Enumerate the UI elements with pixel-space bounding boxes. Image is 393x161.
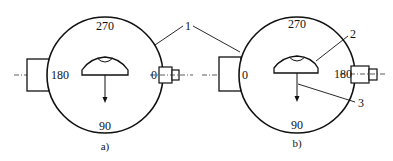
caption-a: a) [101, 140, 110, 153]
callout-3: 3 [358, 96, 364, 110]
right-plug-b [369, 69, 377, 80]
leader-1a [155, 26, 183, 45]
right-connector-b [351, 66, 369, 83]
figure-b: 270 90 0 180 b) 2 3 [202, 17, 385, 150]
leader-1b [193, 26, 240, 52]
angle-0-a: 0 [151, 68, 157, 82]
angle-180-b: 180 [334, 67, 352, 81]
angle-270-a: 270 [96, 19, 114, 33]
angle-180-a: 180 [51, 68, 69, 82]
callout-2: 2 [350, 27, 356, 41]
callout-1: 1 [185, 19, 191, 33]
angle-270-b: 270 [288, 17, 306, 31]
diagram-canvas: 270 90 180 0 a) 1 270 90 0 180 b) 2 3 [0, 0, 393, 161]
angle-90-a: 90 [99, 119, 111, 133]
angle-90-b: 90 [291, 118, 303, 132]
left-housing-b [219, 57, 241, 91]
angle-0-b: 0 [242, 68, 248, 82]
left-housing-a [27, 59, 49, 91]
caption-b: b) [292, 137, 302, 150]
